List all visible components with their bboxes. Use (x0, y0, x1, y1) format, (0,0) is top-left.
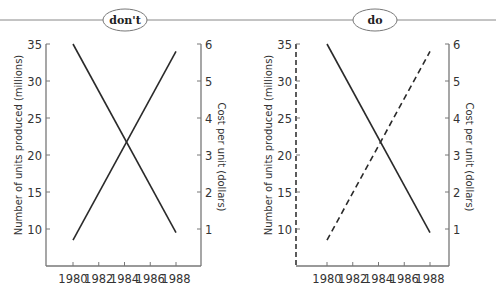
left-axis-title: Number of units produced (millions) (263, 55, 274, 236)
left-tick-label: 10 (27, 223, 42, 237)
right-tick-label: 1 (205, 223, 212, 237)
svg-text:don't: don't (109, 14, 141, 27)
right-axis-title: Cost per unit (dollars) (464, 102, 475, 211)
left-axis-title: Number of units produced (millions) (13, 55, 24, 236)
left-tick-label: 10 (277, 223, 292, 237)
right-tick-label: 4 (453, 112, 460, 126)
left-tick-label: 30 (27, 75, 42, 89)
left-tick-label: 30 (277, 75, 292, 89)
chart-canvas: don'tdo101520253035123456198019821984198… (0, 0, 496, 293)
right-tick-label: 1 (453, 223, 460, 237)
cost-per-unit-line (327, 51, 430, 240)
left-tick-label: 25 (277, 112, 292, 126)
right-tick-label: 2 (205, 186, 212, 200)
right-tick-label: 2 (453, 186, 460, 200)
right-tick-label: 6 (205, 38, 212, 52)
x-tick-label: 1988 (161, 272, 190, 286)
chart-panel-do: 10152025303512345619801982198419861988Nu… (263, 38, 475, 287)
left-tick-label: 20 (277, 149, 292, 163)
right-tick-label: 5 (453, 75, 460, 89)
units-produced-line (327, 44, 430, 233)
badge-do: do (353, 9, 397, 31)
x-tick-label: 1988 (415, 272, 444, 286)
left-tick-label: 25 (27, 112, 42, 126)
right-tick-label: 4 (205, 112, 212, 126)
left-tick-label: 35 (27, 38, 42, 52)
right-axis-title: Cost per unit (dollars) (216, 102, 227, 211)
svg-text:do: do (367, 14, 382, 27)
right-tick-label: 3 (453, 149, 460, 163)
left-tick-label: 35 (277, 38, 292, 52)
left-tick-label: 20 (27, 149, 42, 163)
left-tick-label: 15 (27, 186, 42, 200)
right-tick-label: 6 (453, 38, 460, 52)
chart-panel-dont: 10152025303512345619801982198419861988Nu… (13, 38, 227, 287)
right-tick-label: 5 (205, 75, 212, 89)
left-tick-label: 15 (277, 186, 292, 200)
units-produced-line (73, 44, 176, 233)
badge-dont: don't (103, 9, 147, 31)
right-tick-label: 3 (205, 149, 212, 163)
cost-per-unit-line (73, 51, 176, 240)
